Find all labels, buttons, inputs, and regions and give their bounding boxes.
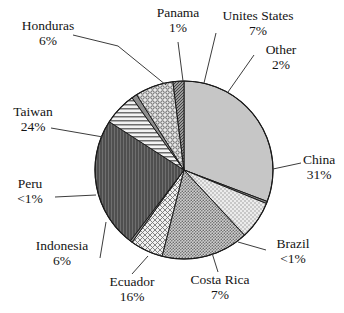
slice-label-united-states: Unites States 7% [206,8,310,38]
slice-label-costa-rica-percent: 7% [182,287,258,302]
slice-label-honduras-percent: 6% [6,33,90,48]
slice-label-ecuador: Ecuador 16% [96,274,168,304]
slice-label-other-name: Other [250,42,312,57]
slice-label-costa-rica-name: Costa Rica [182,272,258,287]
slice-label-united-states-name: Unites States [206,8,310,23]
leader-line-brazil [238,242,266,250]
leader-line-united-states [204,33,216,83]
slice-label-brazil-name: Brazil [266,236,320,251]
slice-label-other-percent: 2% [250,57,312,72]
slice-label-china-name: China [296,152,342,167]
slice-label-panama-name: Panama [140,5,216,20]
slice-label-china: China 31% [296,152,342,182]
slice-label-brazil: Brazil <1% [266,236,320,266]
slice-label-honduras: Honduras 6% [6,18,90,48]
leader-line-panama [178,42,183,81]
pie-chart-figure: Honduras 6% Panama 1% Unites States 7% O… [0,0,344,313]
slice-label-taiwan: Taiwan 24% [4,104,62,134]
leader-line-peru [55,195,96,197]
slice-label-peru-name: Peru [6,176,54,191]
slice-label-other: Other 2% [250,42,312,72]
pie-slices [95,81,273,259]
slice-label-ecuador-percent: 16% [96,289,168,304]
slice-label-peru-percent: <1% [6,191,54,206]
slice-label-indonesia: Indonesia 6% [24,238,100,268]
slice-label-peru: Peru <1% [6,176,54,206]
slice-label-taiwan-name: Taiwan [4,104,62,119]
slice-label-united-states-percent: 7% [206,23,310,38]
slice-label-brazil-percent: <1% [266,251,320,266]
slice-label-ecuador-name: Ecuador [96,274,168,289]
leader-line-indonesia [100,222,106,258]
slice-label-indonesia-name: Indonesia [24,238,100,253]
slice-label-costa-rica: Costa Rica 7% [182,272,258,302]
slice-label-panama: Panama 1% [140,5,216,35]
slice-label-honduras-name: Honduras [6,18,90,33]
slice-label-indonesia-percent: 6% [24,253,100,268]
slice-label-taiwan-percent: 24% [4,119,62,134]
leader-line-ecuador [132,256,148,274]
leader-line-costa-rica [212,253,218,272]
slice-label-china-percent: 31% [296,167,342,182]
slice-label-panama-percent: 1% [140,20,216,35]
